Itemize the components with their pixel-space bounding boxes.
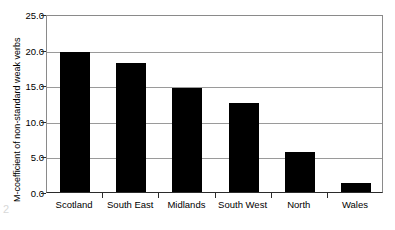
bar-south-west <box>229 103 259 192</box>
x-axis-tick-label: Midlands <box>167 199 205 210</box>
bar-north <box>285 152 315 192</box>
x-axis-tick-mark <box>102 193 103 198</box>
bar-slot <box>216 16 272 192</box>
y-axis-tick-labels: 0.05.010.015.020.025.0 <box>14 0 44 205</box>
x-axis-tick-mark <box>215 193 216 198</box>
bar-slot <box>272 16 328 192</box>
bar-slot <box>47 16 103 192</box>
bars-layer <box>47 16 382 192</box>
x-axis-tick-labels: ScotlandSouth EastMidlandsSouth WestNort… <box>46 199 383 219</box>
bar-midlands <box>172 88 202 192</box>
bar-south-east <box>116 63 146 192</box>
y-axis-tick-mark <box>41 122 46 123</box>
bar-slot <box>103 16 159 192</box>
x-axis-tick-label: Scotland <box>56 199 93 210</box>
y-axis-tick-mark <box>41 193 46 194</box>
x-axis-tick-label: North <box>287 199 310 210</box>
x-axis-tick-mark <box>327 193 328 198</box>
bar-slot <box>328 16 384 192</box>
y-axis-tick-mark <box>41 157 46 158</box>
x-axis-tick-mark <box>158 193 159 198</box>
plot-area <box>46 15 383 193</box>
x-axis-tick-label: Wales <box>342 199 368 210</box>
y-axis-tick-mark <box>41 15 46 16</box>
x-axis-tick-mark <box>271 193 272 198</box>
x-axis-tick-label: South West <box>218 199 267 210</box>
scan-artifact: 2 <box>3 203 9 215</box>
bar-scotland <box>60 52 90 192</box>
x-axis-tick-label: South East <box>107 199 153 210</box>
bar-chart: M-coefficient of non-standard weak verbs… <box>0 0 395 230</box>
y-axis-tick-mark <box>41 86 46 87</box>
bar-slot <box>159 16 215 192</box>
y-axis-tick-mark <box>41 51 46 52</box>
bar-wales <box>341 183 371 192</box>
